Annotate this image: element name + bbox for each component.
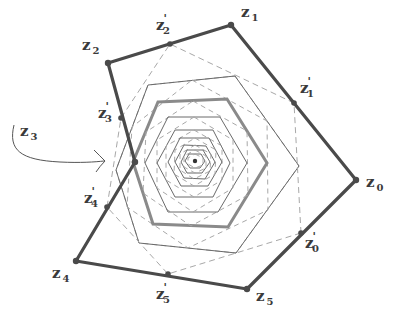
vertex-dot-z2-prime xyxy=(167,41,173,47)
diagram-canvas: z0z1z2z4z5z'0z'1z'2z'3z'4z'5 z3 xyxy=(0,0,395,317)
vertex-dot-z2 xyxy=(105,60,111,66)
arrow-annotation: z3 xyxy=(13,122,105,172)
label-z0: z0 xyxy=(366,173,384,193)
inner-hexagon-4 xyxy=(143,101,248,226)
vertex-dot-z5 xyxy=(244,286,250,292)
label-z1-prime: z'1 xyxy=(300,75,314,99)
inner-hexagon-7 xyxy=(157,130,230,197)
midpoint-polygon-diagram: z0z1z2z4z5z'0z'1z'2z'3z'4z'5 z3 xyxy=(0,0,395,317)
label-z5-prime: z'5 xyxy=(156,281,170,305)
vertex-dot-z4-prime xyxy=(104,204,110,210)
vertex-dot-z1 xyxy=(228,22,234,28)
label-z4: z4 xyxy=(52,264,70,284)
inner-hexagons xyxy=(116,76,299,253)
centroid-dot xyxy=(193,159,197,163)
label-z3-prime: z'3 xyxy=(98,100,112,124)
vertex-dot-z3-prime xyxy=(118,115,124,121)
vertex-dot-z1-prime xyxy=(291,100,297,106)
label-z2-prime: z'2 xyxy=(156,12,170,36)
label-z5: z5 xyxy=(256,287,274,307)
vertex-dot-z0 xyxy=(353,177,359,183)
vertex-dot-z0-prime xyxy=(298,230,304,236)
label-z4-prime: z'4 xyxy=(84,185,98,209)
arrow-label-z3: z3 xyxy=(20,122,38,142)
vertex-dot-z5-prime xyxy=(165,271,171,277)
label-z1: z1 xyxy=(241,3,259,23)
label-z2: z2 xyxy=(82,36,100,56)
vertex-dot-z3 xyxy=(132,159,138,165)
inner-hexagon-6 xyxy=(157,117,233,212)
vertex-dot-z4 xyxy=(73,258,79,264)
label-z0-prime: z'0 xyxy=(305,230,319,254)
